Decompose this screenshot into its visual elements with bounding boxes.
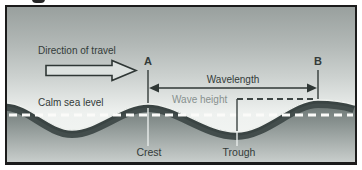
wavelength-label: Wavelength xyxy=(207,74,259,85)
wave-diagram-canvas xyxy=(7,7,355,162)
wave-height-label: Wave height xyxy=(172,94,227,105)
direction-arrow-icon xyxy=(46,61,136,81)
wave-diagram-figure xyxy=(5,5,357,165)
direction-of-travel-label: Direction of travel xyxy=(38,45,116,56)
point-b-label: B xyxy=(314,56,322,67)
point-a-label: A xyxy=(144,56,152,67)
trough-label: Trough xyxy=(223,147,256,158)
calm-sea-level-label: Calm sea level xyxy=(38,97,104,108)
cropped-text-fragment xyxy=(32,0,45,3)
wave-diagram-page: Direction of travel A B Wavelength Wave … xyxy=(0,0,362,170)
crest-label: Crest xyxy=(136,147,161,158)
